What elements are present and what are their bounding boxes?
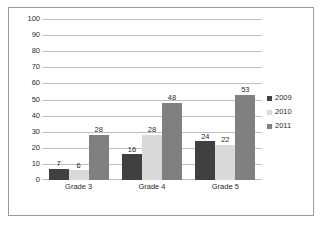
bar-group: 7628: [42, 19, 115, 180]
x-axis-category-labels: Grade 3Grade 4Grade 5: [42, 183, 262, 197]
bar-value-label: 22: [221, 136, 229, 144]
y-tick-label: 10: [32, 160, 40, 168]
chart-screenshot: 0102030405060708090100 7628162848242253 …: [0, 0, 323, 225]
bar-value-label: 7: [57, 160, 61, 168]
y-tick-label: 60: [32, 80, 40, 88]
x-category-label: Grade 4: [138, 183, 165, 191]
legend-label: 2009: [275, 94, 292, 102]
legend-item: 2010: [267, 106, 309, 118]
y-tick-label: 90: [32, 31, 40, 39]
legend-item: 2011: [267, 120, 309, 132]
y-tick-label: 50: [32, 96, 40, 104]
bar: 28: [89, 135, 109, 180]
bar-groups: 7628162848242253: [42, 19, 262, 180]
bar: 7: [49, 169, 69, 180]
bar-value-label: 48: [168, 94, 176, 102]
legend-swatch-icon: [267, 110, 272, 115]
legend-swatch-icon: [267, 124, 272, 129]
y-tick-label: 100: [27, 15, 40, 23]
bar: 53: [235, 95, 255, 180]
y-tick-label: 80: [32, 47, 40, 55]
y-tick-label: 30: [32, 128, 40, 136]
bar-group: 242253: [189, 19, 262, 180]
x-category-label: Grade 5: [212, 183, 239, 191]
legend-item: 2009: [267, 92, 309, 104]
plot-area: 7628162848242253: [42, 19, 262, 180]
bar-value-label: 53: [241, 86, 249, 94]
y-axis-tick-labels: 0102030405060708090100: [12, 19, 40, 180]
y-tick-label: 0: [36, 176, 40, 184]
bar-group: 162848: [115, 19, 188, 180]
y-tick-label: 20: [32, 144, 40, 152]
y-tick-label: 70: [32, 64, 40, 72]
bar-value-label: 28: [148, 126, 156, 134]
bar: 48: [162, 103, 182, 180]
bar-value-label: 24: [201, 133, 209, 141]
bar: 16: [122, 154, 142, 180]
bar: 6: [69, 170, 89, 180]
bar: 28: [142, 135, 162, 180]
chart-legend: 200920102011: [267, 92, 309, 134]
legend-swatch-icon: [267, 96, 272, 101]
bar-value-label: 6: [77, 162, 81, 170]
bar-value-label: 16: [128, 146, 136, 154]
bar-value-label: 28: [94, 126, 102, 134]
y-tick-label: 40: [32, 112, 40, 120]
bar: 22: [215, 145, 235, 180]
x-category-label: Grade 3: [65, 183, 92, 191]
legend-label: 2010: [275, 108, 292, 116]
bar: 24: [195, 141, 215, 180]
legend-label: 2011: [275, 122, 291, 130]
